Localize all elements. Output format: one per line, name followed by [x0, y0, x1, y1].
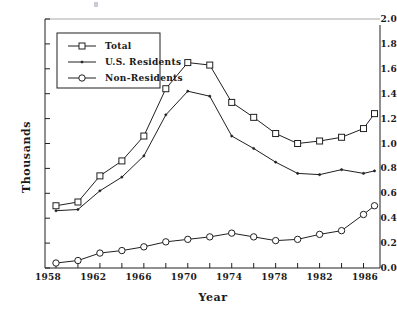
- data-series-layer: [53, 60, 378, 267]
- legend-sample-total: [68, 43, 96, 49]
- legend-box: [57, 33, 160, 88]
- series-non-residents: [53, 203, 378, 267]
- legend-sample-u-s-residents: [68, 61, 96, 63]
- chart-figure: Thousands Year 0.0 0.2 0.4 0.6 0.8 1.0 1…: [0, 0, 397, 314]
- axes-frame: [45, 19, 380, 268]
- axis-ticks: [45, 19, 364, 268]
- legend-sample-non-residents: [68, 75, 96, 81]
- series-u-s-residents: [55, 90, 376, 212]
- series-total: [53, 60, 378, 209]
- legend-markers: [68, 43, 96, 81]
- plot-canvas: [0, 0, 397, 314]
